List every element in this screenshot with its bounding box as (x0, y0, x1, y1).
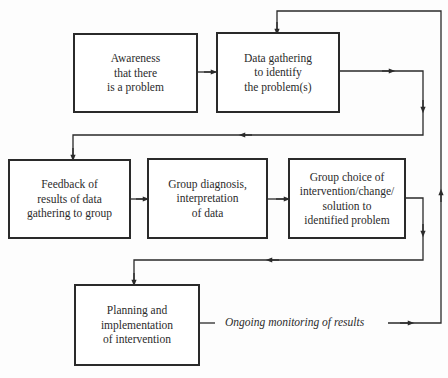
box-awareness: Awareness that there is a problem (73, 33, 198, 113)
box-group-choice: Group choice of intervention/change/ sol… (288, 158, 406, 239)
box-group-diagnosis: Group diagnosis, interpretation of data (147, 158, 268, 239)
box-planning: Planning and implementation of intervent… (74, 284, 200, 366)
box-group-choice-label: Group choice of intervention/change/ sol… (300, 170, 395, 228)
box-group-diagnosis-label: Group diagnosis, interpretation of data (168, 177, 247, 221)
box-planning-label: Planning and implementation of intervent… (101, 303, 173, 347)
flowchart-diagram: Awareness that there is a problem Data g… (0, 0, 448, 378)
box-data-gathering: Data gathering to identify the problem(s… (216, 32, 340, 113)
box-awareness-label: Awareness that there is a problem (107, 51, 164, 95)
ongoing-monitoring-annotation: Ongoing monitoring of results (223, 316, 366, 328)
box-feedback: Feedback of results of data gathering to… (8, 159, 131, 239)
box-feedback-label: Feedback of results of data gathering to… (27, 177, 112, 221)
box-data-gathering-label: Data gathering to identify the problem(s… (244, 51, 312, 95)
